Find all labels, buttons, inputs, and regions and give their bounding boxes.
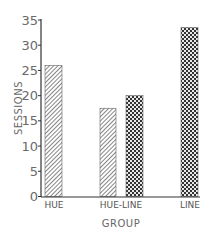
y-tick-label: 10: [21, 139, 38, 154]
y-tick-label: 30: [21, 38, 38, 53]
bars: [45, 28, 198, 197]
y-tick-label: 0: [30, 189, 38, 204]
bar-chart: 05101520253035 HUEHUE-LINELINE SESSIONS …: [0, 0, 210, 238]
x-category-label: HUE: [44, 200, 63, 210]
y-tick-label: 5: [30, 164, 38, 179]
bar-hue-line-checkerboard: [126, 96, 143, 197]
y-tick-label: 35: [21, 13, 38, 28]
x-axis-category-labels: HUEHUE-LINELINE: [44, 200, 200, 210]
x-axis-title: GROUP: [102, 218, 140, 229]
x-category-label: HUE-LINE: [100, 200, 143, 210]
y-tick-label: 25: [21, 63, 38, 78]
bar-line-checkerboard: [181, 28, 198, 197]
x-category-label: LINE: [180, 200, 200, 210]
y-axis-ticks: 05101520253035: [21, 13, 41, 205]
bar-hue-diagonal-hatch: [45, 65, 62, 196]
bar-hue-line-diagonal-hatch: [100, 108, 116, 196]
y-axis-title: SESSIONS: [13, 81, 24, 135]
